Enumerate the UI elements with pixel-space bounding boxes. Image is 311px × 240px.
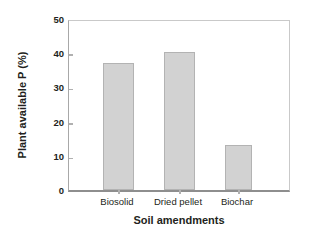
chart-figure: Plant available P (%) 50 40 30 20 10 0 B…: [0, 0, 311, 240]
y-tick-label-20: 20: [24, 118, 64, 128]
y-tick-mark-30: [69, 89, 73, 91]
bar-biochar: [225, 145, 252, 190]
x-tick-mark-biochar: [238, 190, 240, 194]
bar-biosolid: [103, 63, 134, 190]
x-tick-mark-biosolid: [118, 190, 120, 194]
x-axis-title: Soil amendments: [68, 214, 290, 226]
bar-dried-pellet: [164, 52, 195, 190]
y-tick-label-30: 30: [24, 83, 64, 93]
y-tick-label-0: 0: [24, 186, 64, 196]
y-axis-title: Plant available P (%): [10, 5, 34, 205]
y-tick-label-10: 10: [24, 152, 64, 162]
y-tick-mark-10: [69, 158, 73, 160]
x-tick-mark-dried-pellet: [179, 190, 181, 194]
y-tick-label-40: 40: [24, 49, 64, 59]
plot-area: [68, 20, 290, 192]
y-tick-label-50: 50: [24, 15, 64, 25]
x-category-label-biochar: Biochar: [192, 196, 282, 208]
y-tick-mark-40: [69, 54, 73, 56]
y-tick-mark-20: [69, 123, 73, 125]
